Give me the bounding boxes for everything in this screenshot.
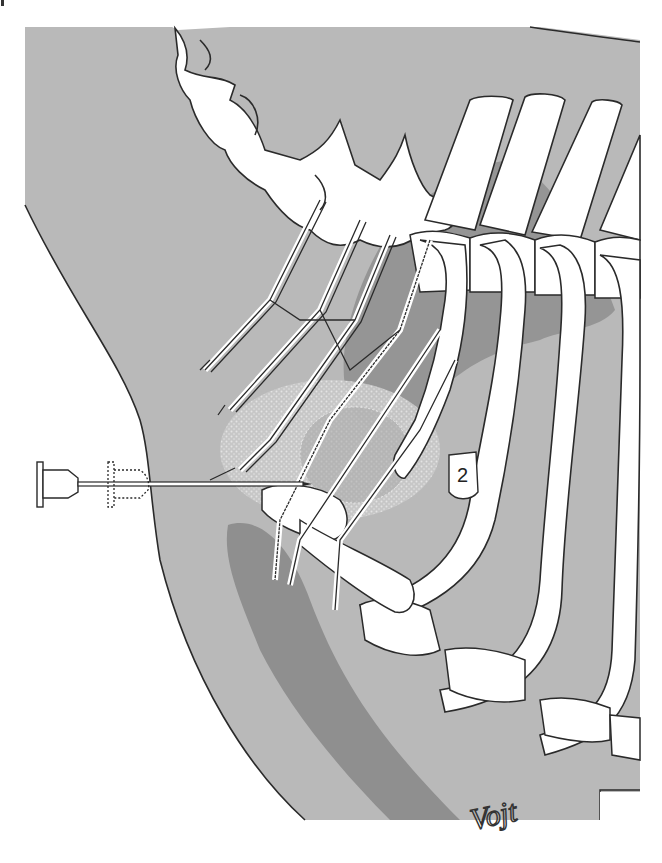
needle-hub-flange: [37, 462, 43, 507]
rib-number-label: 2: [457, 464, 468, 486]
anatomy-illustration: 2: [0, 0, 662, 863]
needle-hub: [43, 470, 78, 498]
needle-shaft: [78, 482, 303, 486]
